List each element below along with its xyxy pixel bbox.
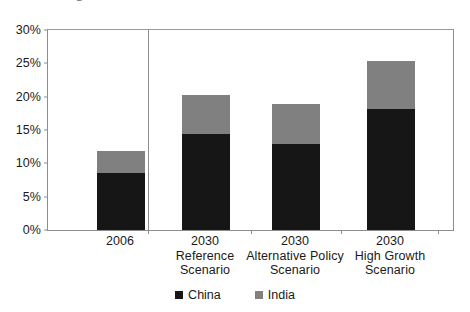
bar-group — [272, 104, 320, 230]
legend-item[interactable]: China — [175, 288, 221, 302]
bar-segment-china — [272, 144, 320, 230]
plot-area: 0%5%10%15%20%25%30% — [47, 29, 454, 231]
y-axis-tick-label: 5% — [23, 190, 41, 204]
y-axis-tick-label: 10% — [16, 156, 41, 170]
legend-item[interactable]: India — [255, 288, 295, 302]
x-axis-category-label-line: 2030 — [315, 234, 465, 249]
legend-swatch-icon — [255, 291, 263, 299]
bar-segment-india — [272, 104, 320, 144]
bar-segment-china — [182, 134, 230, 230]
scenario-separator-line — [148, 30, 149, 230]
y-axis-tick-mark — [44, 30, 48, 31]
bar-segment-india — [182, 95, 230, 134]
y-axis-tick-mark — [44, 196, 48, 197]
bar-group — [367, 61, 415, 230]
y-axis-tick-mark — [44, 130, 48, 131]
x-axis-category-label-line: High Growth — [315, 249, 465, 264]
y-axis-tick-label: 25% — [16, 56, 41, 70]
y-axis-tick-label: 30% — [16, 23, 41, 37]
y-axis-tick-mark — [44, 163, 48, 164]
legend-label: China — [188, 288, 221, 302]
bar-group — [97, 151, 145, 230]
x-axis-category-label: 2030High GrowthScenario — [315, 234, 465, 278]
y-axis-tick-mark — [44, 230, 48, 231]
bar-segment-china — [97, 173, 145, 230]
bar-segment-china — [367, 109, 415, 230]
bar-segment-india — [367, 61, 415, 108]
legend-label: India — [268, 288, 295, 302]
y-axis-tick-label: 0% — [23, 223, 41, 237]
chart-legend: ChinaIndia — [0, 288, 470, 302]
y-axis-tick-label: 15% — [16, 123, 41, 137]
y-axis-tick-label: 20% — [16, 90, 41, 104]
legend-swatch-icon — [175, 291, 183, 299]
y-axis-tick-mark — [44, 63, 48, 64]
x-axis-category-label-line: Scenario — [315, 263, 465, 278]
cropped-chart-title: g — [76, 0, 82, 1]
stacked-bar-chart: g 0%5%10%15%20%25%30% 20062030ReferenceS… — [0, 0, 470, 312]
bar-group — [182, 95, 230, 230]
y-axis-tick-mark — [44, 96, 48, 97]
bar-segment-india — [97, 151, 145, 173]
